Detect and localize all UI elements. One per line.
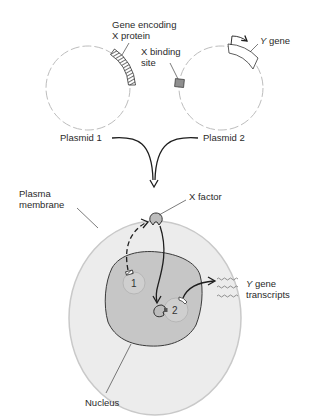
plasmid-1-number: 1 <box>131 278 137 289</box>
leader-line-x-factor <box>159 200 186 215</box>
plasma-membrane-label-line1: Plasma <box>19 188 51 199</box>
y-gene-segment <box>228 44 258 69</box>
nucleus <box>105 252 202 347</box>
leader-line-membrane <box>77 208 98 228</box>
leader-line-gene-x <box>122 43 129 55</box>
x-binding-site-label-line1: X binding <box>141 46 181 57</box>
converge-arrowhead <box>150 180 158 187</box>
y-gene-label-rest: gene <box>266 35 290 46</box>
x-binding-site <box>175 79 185 88</box>
plasmid-1-to-cell-arrow <box>112 138 153 180</box>
nucleus-label: Nucleus <box>85 397 120 408</box>
plasmid-1 <box>46 43 136 130</box>
y-gene-promoter-arrow <box>231 36 247 45</box>
x-binding-site-label-line2: site <box>141 57 156 68</box>
y-gene-label: Y gene <box>260 35 290 46</box>
leader-line-y-gene <box>250 44 258 52</box>
x-factor-label: X factor <box>189 191 222 202</box>
y-gene-transcripts-label-line1: Y gene <box>246 278 276 289</box>
y-gene-transcripts-label-line2: transcripts <box>246 289 290 300</box>
diagram-canvas: Gene encoding X protein Plasmid 1 X bind… <box>0 0 320 420</box>
gene-encoding-x-label-line2: X protein <box>112 30 150 41</box>
plasmid-2 <box>170 36 263 130</box>
plasmid-2-to-cell-arrow <box>155 138 198 180</box>
transcripts-label-rest: gene <box>252 278 276 289</box>
nucleus-binding-site <box>164 308 168 312</box>
plasma-membrane-label-line2: membrane <box>19 199 64 210</box>
plasmid-1-label: Plasmid 1 <box>60 132 102 143</box>
plasmid-2-label: Plasmid 2 <box>203 132 245 143</box>
gene-encoding-x-label-line1: Gene encoding <box>112 19 176 30</box>
plasmid-2-number: 2 <box>172 305 178 316</box>
leader-line-binding-site <box>170 63 178 79</box>
x-protein-gene-segment <box>111 49 136 85</box>
